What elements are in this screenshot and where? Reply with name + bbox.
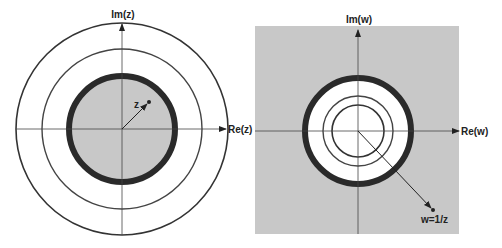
z-point-label: z: [134, 99, 139, 110]
im-z-label: Im(z): [111, 9, 134, 20]
z-plane: Im(z) Re(z) z: [16, 9, 252, 235]
re-z-label: Re(z): [228, 124, 252, 135]
inversion-diagram: Im(z) Re(z) z Im(w) Re(w) w=1/z: [0, 0, 502, 248]
re-w-label: Re(w): [461, 126, 488, 137]
z-point: [147, 100, 151, 104]
w-point-label: w=1/z: [420, 214, 448, 225]
im-w-label: Im(w): [346, 14, 372, 25]
w-plane: Im(w) Re(w) w=1/z: [255, 14, 488, 234]
w-point: [431, 208, 435, 212]
